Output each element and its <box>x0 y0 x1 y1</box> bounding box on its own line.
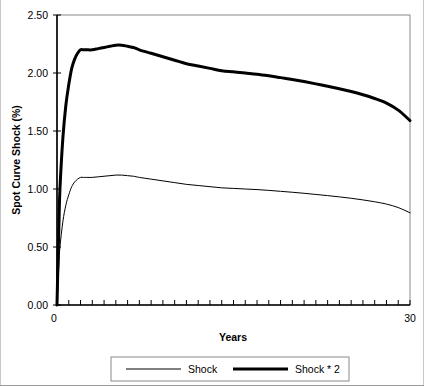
y-tick-label: 2.50 <box>28 9 49 21</box>
y-tick-label: 0.50 <box>28 241 49 253</box>
x-tick-label-min: 0 <box>51 312 57 324</box>
chart-legend: Shock Shock * 2 <box>111 357 349 381</box>
y-tick-label: 1.00 <box>28 183 49 195</box>
image-border-left <box>0 0 1 386</box>
y-tick-label: 0.00 <box>28 299 49 311</box>
x-tick-label-max: 30 <box>404 312 416 324</box>
legend-label-shock-times-2: Shock * 2 <box>295 363 340 375</box>
plot-area <box>57 15 410 305</box>
x-axis-title: Years <box>219 331 247 343</box>
chart-container: 0.000.501.001.502.002.50 0 30 Years Spot… <box>0 0 424 386</box>
y-tick-label: 1.50 <box>28 125 49 137</box>
y-axis-title: Spot Curve Shock (%) <box>10 105 22 215</box>
legend-label-shock: Shock <box>188 363 218 375</box>
y-axis-ticks: 0.000.501.001.502.002.50 <box>28 9 61 311</box>
y-tick-label: 2.00 <box>28 67 49 79</box>
spot-curve-shock-chart: 0.000.501.001.502.002.50 0 30 Years Spot… <box>0 0 424 386</box>
